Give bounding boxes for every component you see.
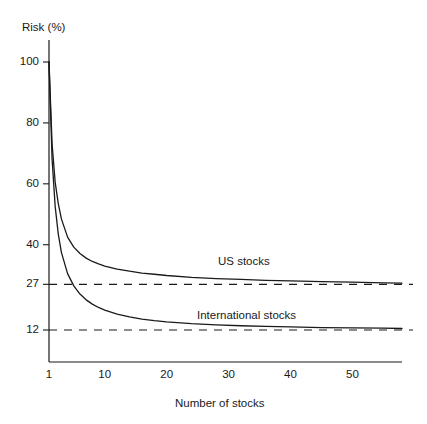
series-curve-international-stocks <box>49 62 402 328</box>
x-tick-label-30: 30 <box>209 369 249 381</box>
x-tick-label-10: 10 <box>85 369 125 381</box>
y-tick-label-27: 27 <box>0 278 39 290</box>
series-curves <box>49 62 402 328</box>
asymptote-lines <box>49 284 413 330</box>
x-tick-label-50: 50 <box>332 369 372 381</box>
chart-plot-area <box>0 0 427 424</box>
risk-diversification-chart: Risk (%) Number of stocks US stocks Inte… <box>0 0 427 424</box>
x-tick-label-1: 1 <box>29 369 69 381</box>
series-label-international-stocks: International stocks <box>197 310 296 322</box>
series-curve-us-stocks <box>49 62 402 283</box>
y-tick-marks <box>43 62 49 330</box>
x-axis-title: Number of stocks <box>175 398 264 410</box>
y-tick-label-80: 80 <box>0 117 39 129</box>
series-label-us-stocks: US stocks <box>218 256 270 268</box>
y-tick-label-12: 12 <box>0 324 39 336</box>
x-tick-label-20: 20 <box>147 369 187 381</box>
y-axis-title: Risk (%) <box>22 22 65 34</box>
y-tick-label-40: 40 <box>0 239 39 251</box>
y-tick-label-60: 60 <box>0 178 39 190</box>
y-tick-label-100: 100 <box>0 56 39 68</box>
x-tick-label-40: 40 <box>271 369 311 381</box>
